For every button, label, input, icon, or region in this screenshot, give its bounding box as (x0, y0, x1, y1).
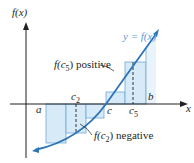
y-axis-arrow-icon (23, 22, 29, 30)
negative-annotation: f(c2) negative (94, 129, 153, 144)
point-b-label: b (148, 90, 154, 102)
rectangle-4 (106, 92, 125, 104)
riemann-rectangles (46, 34, 156, 143)
rectangle-1 (46, 104, 66, 143)
positive-annotation: f(c5) positive (54, 58, 111, 73)
point-a-label: a (36, 103, 42, 115)
curve-arrow-start-icon (32, 147, 39, 153)
curve-label: y = f(x) (122, 30, 156, 43)
point-c5-label: c5 (129, 104, 138, 119)
y-axis-label: f(x) (12, 6, 28, 19)
x-axis-label: x (185, 102, 191, 114)
rectangle-5 (125, 62, 146, 104)
riemann-sum-diagram: f(x) x y = f(x) a b c c2 c5 f(c5) positi… (0, 0, 194, 163)
point-c2-label: c2 (71, 90, 80, 105)
point-c-label: c (107, 104, 112, 116)
